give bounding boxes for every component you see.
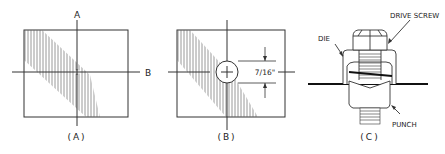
callout-drive-screw: DRIVE SCREW: [390, 12, 439, 20]
panel-b: 7/16" (B): [168, 20, 295, 142]
callout-die: DIE: [318, 35, 330, 43]
axis-label-a: A: [74, 10, 81, 20]
arrow-up-icon: [263, 83, 267, 88]
diagram-canvas: A B (A) 7/16" (B): [0, 0, 445, 154]
screw-threads-lower: [360, 108, 380, 124]
axis-label-b: B: [145, 68, 151, 78]
leader-drive-screw: [390, 20, 410, 42]
caption-b: (B): [217, 132, 236, 142]
dimension-label: 7/16": [255, 68, 275, 77]
caption-c: (C): [360, 132, 379, 142]
caption-a: (A): [67, 132, 86, 142]
arrow-down-icon: [263, 56, 267, 61]
panel-a: A B (A): [12, 10, 151, 142]
punch-body: [349, 81, 390, 108]
callout-punch: PUNCH: [392, 121, 417, 129]
